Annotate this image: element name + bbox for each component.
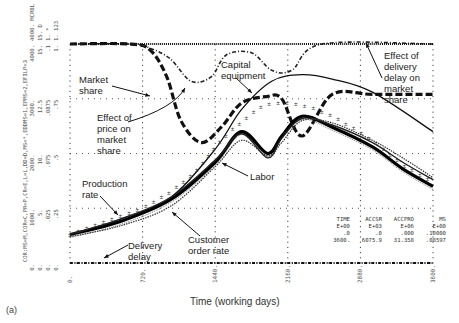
y-tick-label: .1 <box>45 45 51 52</box>
y-tick-label: .5 <box>53 155 59 162</box>
marker-m: ± <box>259 103 263 110</box>
x-axis-ticks: 0.720.1440.2160.2880.3600. <box>66 265 436 283</box>
annotation-delivery-delay: Delivery delay <box>128 240 162 262</box>
x-tick-label: 2880. <box>356 265 363 283</box>
annotation-arrow-line <box>112 86 150 96</box>
marker-m: ± <box>218 138 222 145</box>
x-tick-label: 3600. <box>429 265 436 283</box>
summary-col-accpro: ACCPRO <box>382 216 414 223</box>
x-tick-label: 720. <box>139 269 146 283</box>
marker-m: ± <box>68 231 72 238</box>
marker-m: ± <box>127 209 131 216</box>
y-tick-label: 3000. <box>29 100 35 117</box>
marker-m: ± <box>167 189 171 196</box>
marker-m: ± <box>311 104 315 111</box>
summary-cell: .0 <box>350 230 382 237</box>
marker-m: ± <box>252 108 256 115</box>
marker-m: ± <box>160 193 164 200</box>
annotation-labor: Labor <box>250 171 274 182</box>
summary-cell: E+00 <box>318 223 350 230</box>
summary-cell: 31.358 <box>382 237 414 244</box>
marker-m: ± <box>294 100 298 107</box>
marker-m: ± <box>245 114 249 121</box>
marker-m: ± <box>344 120 348 127</box>
marker-m: ± <box>110 215 114 222</box>
x-tick-label: 0. <box>66 276 73 283</box>
y-tick-label: 15. <box>37 45 43 55</box>
y-tick-label: .75 <box>53 100 59 110</box>
annotation-customer-order-rate: Customer order rate <box>188 234 229 256</box>
x-axis-label: Time (working days) <box>190 296 280 307</box>
y-tick-label: 0. <box>37 264 43 271</box>
marker-m: ± <box>144 202 148 209</box>
marker-m: ± <box>119 212 123 219</box>
annotation-arrow-line <box>366 43 382 78</box>
marker-m: ± <box>195 166 199 173</box>
y-axis-legend: COR:MS=M,COR=C,PR=P,CR=E,L=L,DD=D,MS=*,E… <box>22 60 28 262</box>
y-tick-label: 12.5 <box>37 100 43 113</box>
y-tick-label: 10. <box>37 155 43 165</box>
marker-m: ± <box>85 224 89 231</box>
y-tick-label: 0. <box>45 264 51 271</box>
summary-cell: 6075.9 <box>350 237 382 244</box>
y-tick-label: .0875 <box>45 100 51 117</box>
marker-m: ± <box>136 206 140 213</box>
marker-m: ± <box>93 221 97 228</box>
marker-m: ± <box>224 132 228 139</box>
marker-m: ± <box>188 172 192 179</box>
marker-m: ± <box>402 162 406 169</box>
annotation-capital-equipment: Capital equipment <box>221 59 265 81</box>
marker-m: ± <box>276 99 280 106</box>
marker-m: ± <box>426 175 430 182</box>
y-tick-label: 0. <box>53 264 59 271</box>
x-tick-label: 1440. <box>211 265 218 283</box>
marker-m: ± <box>395 156 399 163</box>
summary-cell: E+06 <box>382 223 414 230</box>
y-tick-label: 5. <box>37 209 43 216</box>
summary-cell: E+03 <box>350 223 382 230</box>
x-tick-label: 2160. <box>284 265 291 283</box>
marker-m: ± <box>285 99 289 106</box>
marker-m: ± <box>328 111 332 118</box>
summary-row: .0 .0 .000 .10000 <box>318 230 446 237</box>
y-tick-label: 2000. <box>29 155 35 172</box>
marker-m: ± <box>102 218 106 225</box>
summary-col-accsr: ACCSR <box>350 216 382 223</box>
y-tick-label: .25 <box>53 209 59 219</box>
summary-row: 3600. 6075.9 31.358 .08597 <box>318 237 446 244</box>
marker-m: ± <box>231 125 235 132</box>
annotation-effect-delivery: Effect of delivery delay on market share <box>384 50 420 105</box>
summary-units-row: E+00 E+03 E+06 E+00 <box>318 223 446 230</box>
y-tick-label: 0. <box>29 264 35 271</box>
y-tick-label: .075 <box>45 155 51 168</box>
marker-m: ± <box>374 139 378 146</box>
line-chart: ±±±±±±±±±±±±±±±±±±±±±±±±±±±±±±±±±±±±±±±±… <box>0 0 459 323</box>
marker-m: ± <box>182 178 186 185</box>
y-tick-label: 1000. <box>29 209 35 226</box>
y-tick-label: 4000. <box>29 45 35 62</box>
summary-col-ms: MS <box>414 216 446 223</box>
y-axis-header-label: 4000. MCRBL <box>29 3 35 41</box>
y-axis-ticks: 0.1000.2000.3000.4000.0.5.10.12.515.0..0… <box>29 3 59 270</box>
annotation-effect-price: Effect of price on market share <box>97 112 132 156</box>
summary-table: TIME ACCSR ACCPRO MS E+00 E+03 E+06 E+00… <box>318 216 446 244</box>
summary-header-row: TIME ACCSR ACCPRO MS <box>318 216 446 223</box>
marker-m: ± <box>201 159 205 166</box>
summary-cell: .08597 <box>414 237 446 244</box>
marker-m: ± <box>238 120 242 127</box>
annotation-arrow-line <box>172 212 200 236</box>
marker-m: ± <box>367 134 371 141</box>
marker-m: ± <box>336 115 340 122</box>
annotation-production-rate: Production rate <box>82 178 127 200</box>
marker-m: ± <box>303 102 307 109</box>
summary-cell: 3600. <box>318 237 350 244</box>
y-axis-header-label: 1. * <box>45 28 51 41</box>
summary-cell: .000 <box>382 230 414 237</box>
marker-m: ± <box>410 166 414 173</box>
summary-cell: .0 <box>318 230 350 237</box>
y-tick-label: 1. <box>53 45 59 52</box>
marker-m: ± <box>206 152 210 159</box>
marker-m: ± <box>152 198 156 205</box>
y-tick-label: .025 <box>45 209 51 222</box>
marker-m: ± <box>174 183 178 190</box>
